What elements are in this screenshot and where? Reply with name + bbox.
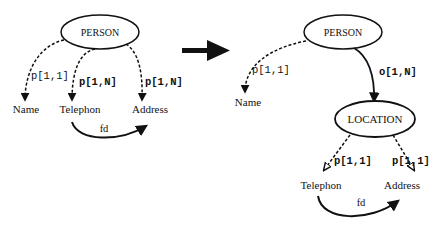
right-diagram: PERSON p[1,1] Name o[1,N] LOCATION p[1,1… (235, 15, 430, 216)
fd-arc (72, 122, 146, 138)
person-node-label: PERSON (81, 27, 119, 38)
edge-person-telephon (72, 49, 95, 100)
fd-label-right: fd (357, 197, 366, 208)
edge-person-location (354, 48, 374, 101)
edge-label-location: o[1,N] (379, 66, 417, 78)
left-diagram: PERSON p[1,1] p[1,N] p[1,N] Name Telepho… (13, 15, 183, 138)
person-node-right-label: PERSON (324, 27, 362, 38)
edge-label-name-right: p[1,1] (252, 64, 290, 76)
leaf-address: Address (132, 103, 168, 115)
transform-arrow-icon (182, 40, 230, 61)
edge-label-name: p[1,1] (31, 70, 69, 82)
edge-label-address: p[1,N] (145, 76, 183, 88)
leaf-name-right: Name (235, 96, 261, 108)
fd-label: fd (100, 123, 109, 134)
edge-label-telephon: p[1,N] (79, 76, 117, 88)
location-node-label: LOCATION (348, 113, 403, 125)
edge-label-address-right: p[1,1] (392, 155, 430, 167)
edge-label-telephon-right: p[1,1] (334, 155, 372, 167)
leaf-telephon-right: Telephon (301, 179, 342, 191)
leaf-address-right: Address (384, 179, 420, 191)
leaf-name: Name (13, 103, 39, 115)
edge-person-address (126, 44, 142, 100)
leaf-telephon: Telephon (60, 103, 101, 115)
schema-transformation-diagram: PERSON p[1,1] p[1,N] p[1,N] Name Telepho… (0, 0, 442, 226)
